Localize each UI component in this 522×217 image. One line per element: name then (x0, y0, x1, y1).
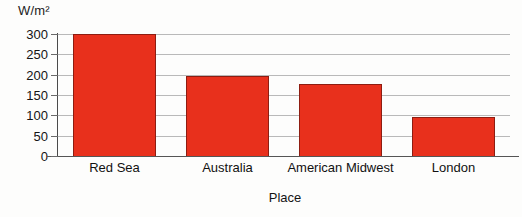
bar (186, 76, 269, 156)
x-axis-title-text: Place (269, 190, 302, 205)
x-axis-category-label-group: Red SeaAustraliaAmerican MidwestLondon (58, 160, 510, 182)
y-axis-tick (51, 156, 58, 157)
bar-chart-figure: W/m² 050100150200250300 Red SeaAustralia… (0, 0, 522, 217)
y-axis-tick-label: 50 (2, 129, 48, 142)
y-axis-tick-label: 0 (2, 150, 48, 163)
y-axis-tick (51, 95, 58, 96)
x-axis-line (47, 156, 519, 157)
y-axis-tick-label: 300 (2, 28, 48, 41)
y-axis-tick (51, 34, 58, 35)
y-axis-tick (51, 136, 58, 137)
bar (299, 84, 382, 156)
x-axis-category-label: London (397, 160, 510, 175)
y-axis-tick (51, 75, 58, 76)
y-axis-tick (51, 54, 58, 55)
bars-layer (58, 34, 510, 156)
y-axis-tick-label: 200 (2, 68, 48, 81)
x-axis-category-label: Australia (171, 160, 284, 175)
x-axis-category-label: Red Sea (58, 160, 171, 175)
bar (73, 34, 156, 156)
y-axis-tick (51, 115, 58, 116)
x-axis-category-label: American Midwest (284, 160, 397, 175)
y-axis-tick-label: 150 (2, 89, 48, 102)
y-axis-tick-label: 100 (2, 109, 48, 122)
bar (412, 117, 495, 156)
y-axis-tick-label-group: 050100150200250300 (0, 0, 48, 217)
plot-area (58, 34, 510, 156)
x-axis-title: Place (0, 190, 522, 205)
y-axis-tick-label: 250 (2, 48, 48, 61)
